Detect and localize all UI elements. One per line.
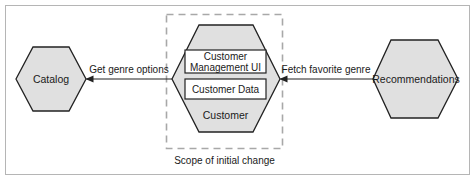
recommendations-node: Recommendations <box>372 40 460 118</box>
customer-management-ui-component: Customer Management UI <box>185 50 266 73</box>
edge-label-get-genre-options: Get genre options <box>89 64 169 75</box>
customer-management-ui-line2: Management UI <box>190 62 261 73</box>
customer-node: Customer Management UI Customer Data Cus… <box>172 25 280 132</box>
catalog-label: Catalog <box>33 73 69 85</box>
edge-get-genre-options: Get genre options <box>87 64 173 79</box>
customer-data-component: Customer Data <box>185 79 266 99</box>
customer-label: Customer <box>203 109 249 121</box>
edge-label-fetch-favorite-genre: Fetch favorite genre <box>282 64 371 75</box>
edge-fetch-favorite-genre: Fetch favorite genre <box>281 64 374 79</box>
recommendations-label: Recommendations <box>372 73 460 85</box>
catalog-node: Catalog <box>16 47 86 111</box>
scope-label: Scope of initial change <box>174 155 275 166</box>
customer-data-label: Customer Data <box>192 84 260 95</box>
customer-management-ui-line1: Customer <box>204 51 248 62</box>
architecture-diagram: Scope of initial change Catalog Recommen… <box>0 0 475 181</box>
